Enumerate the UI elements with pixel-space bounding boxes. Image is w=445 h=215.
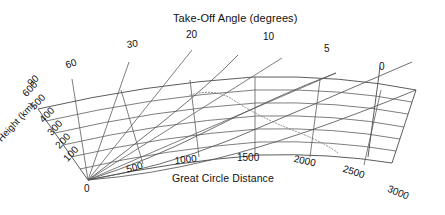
angle-tick-20: 20 xyxy=(186,29,197,40)
distance-tick-1500: 1500 xyxy=(237,152,259,163)
refracted-ray-path xyxy=(190,92,338,153)
dotted-ray-curve xyxy=(190,92,338,153)
distance-line-2500 xyxy=(364,90,381,165)
distance-line-1000 xyxy=(190,80,199,157)
ray-path-curve-d xyxy=(88,55,238,180)
ray-path-chart: Take-Off Angle (degrees) Great Circle Di… xyxy=(0,0,445,215)
distance-line-3000 xyxy=(392,90,416,163)
axis-title-great-circle-distance: Great Circle Distance xyxy=(172,172,274,184)
angle-tick-5: 5 xyxy=(324,43,330,54)
distance-line-2000 xyxy=(310,80,320,157)
distance-tick-0: 0 xyxy=(84,183,90,194)
distance-tick-1000: 1000 xyxy=(174,153,197,166)
height-arc-300 xyxy=(63,116,404,145)
ray-60deg xyxy=(72,79,88,180)
chart-title-take-off-angle: Take-Off Angle (degrees) xyxy=(173,12,298,24)
angle-tick-0: 0 xyxy=(379,61,385,72)
angle-tick-30: 30 xyxy=(126,37,139,49)
distance-grid-lines xyxy=(121,77,416,165)
distance-line-500 xyxy=(121,90,143,164)
ray-30deg xyxy=(88,62,129,180)
angle-tick-10: 10 xyxy=(263,31,274,42)
